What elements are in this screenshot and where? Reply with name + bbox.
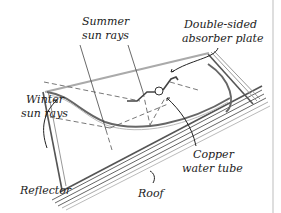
label-copper-line2: water tube — [182, 162, 243, 175]
label-absorber-line1: Double-sided — [183, 18, 257, 31]
reflector — [47, 64, 231, 130]
copper-water-tube — [155, 87, 163, 95]
label-winter-line1: Winter — [26, 93, 65, 106]
label-absorber-line2: absorber plate — [182, 32, 264, 45]
label-summer-line2: sun rays — [82, 29, 129, 42]
label-roof: Roof — [137, 187, 166, 200]
solar-collector-diagram: Summer sun rays Winter sun rays Double-s… — [0, 0, 281, 213]
label-reflector: Reflector — [19, 184, 72, 197]
glazing — [45, 53, 209, 92]
absorber-plate — [127, 77, 178, 101]
label-copper-line1: Copper — [193, 148, 235, 161]
label-winter-line2: sun rays — [21, 107, 68, 120]
label-summer-line1: Summer — [82, 15, 130, 28]
